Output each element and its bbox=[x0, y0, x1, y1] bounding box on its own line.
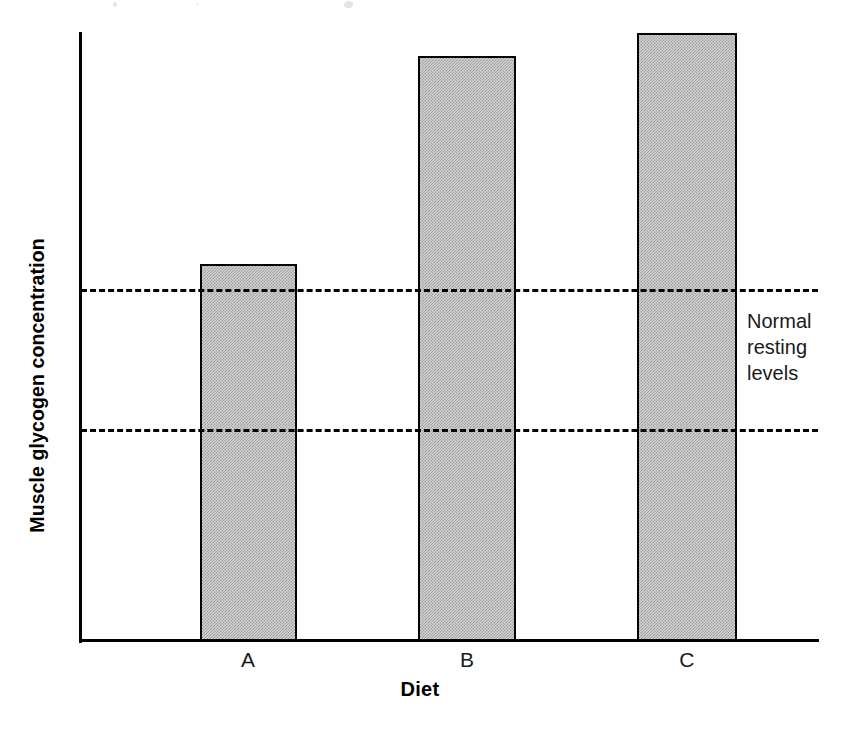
reference-line-lower bbox=[81, 429, 818, 432]
x-tick-label-a: A bbox=[188, 648, 308, 672]
annotation-line-3: levels bbox=[747, 360, 811, 386]
bar-diet-a bbox=[200, 264, 297, 641]
reference-line-upper bbox=[81, 289, 818, 292]
normal-resting-levels-annotation: Normal resting levels bbox=[747, 308, 811, 386]
scan-artifact bbox=[344, 1, 353, 8]
scan-artifact bbox=[196, 3, 199, 6]
x-tick-label-c: C bbox=[627, 648, 747, 672]
x-tick-label-b: B bbox=[407, 648, 527, 672]
y-axis-title: Muscle glycogen concentration bbox=[26, 176, 49, 596]
y-axis-line bbox=[79, 32, 82, 643]
bar-chart-figure: Normal resting levels A B C Diet Muscle … bbox=[0, 0, 841, 731]
bar-diet-c bbox=[637, 33, 737, 641]
bar-diet-b bbox=[418, 56, 516, 641]
annotation-line-1: Normal bbox=[747, 308, 811, 334]
annotation-line-2: resting bbox=[747, 334, 811, 360]
scan-artifact bbox=[113, 2, 117, 7]
x-axis-title: Diet bbox=[340, 678, 500, 701]
